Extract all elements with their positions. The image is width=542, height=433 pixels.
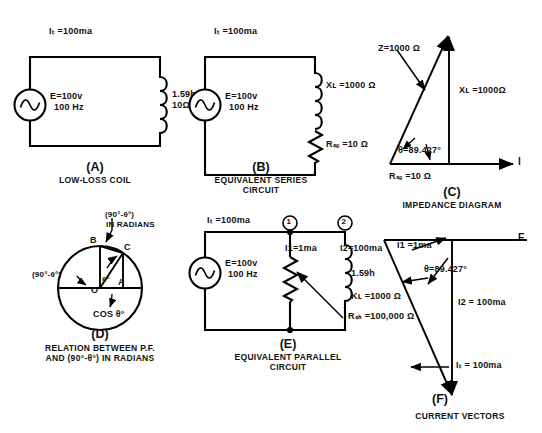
panel-d-arc-label: (90°-θ°) — [32, 271, 61, 280]
node-dot-bottom — [287, 327, 293, 333]
panel-a-source-voltage: E=100v — [50, 91, 82, 101]
panel-b-caption-letter: (B) — [252, 160, 269, 174]
panel-b-reactance-label: Xʟ =1000 Ω — [326, 80, 376, 90]
panel-f-theta-label: θ=89.427° — [424, 264, 467, 274]
theta-leader-line-2 — [402, 278, 428, 282]
panel-a-source-frequency: 100 Hz — [54, 102, 84, 112]
inductor-symbol — [160, 77, 167, 133]
panel-c-theta-label: θ=89.427° — [398, 145, 441, 155]
panel-e-node1-label: 1 — [287, 218, 292, 227]
arc-label-pointer — [77, 276, 86, 285]
panel-c-caption-letter: (C) — [443, 185, 460, 199]
panel-c-resistance-label: Rₛₑ =10 Ω — [389, 171, 431, 181]
panel-b-caption-text-2: CIRCUIT — [243, 186, 280, 196]
panel-d-caption-letter: (D) — [91, 327, 108, 341]
panel-b-source-frequency: 100 Hz — [229, 102, 259, 112]
panel-e-current-label: Iₜ =100ma — [207, 215, 250, 225]
wire-path — [205, 57, 315, 175]
figure-page: Iₜ =100ma E=100v 100 Hz 1.59h 10Ω (A) LO… — [0, 0, 542, 433]
panel-f-caption-text: CURRENT VECTORS — [415, 412, 504, 422]
panel-c-caption-text: IMPEDANCE DIAGRAM — [402, 201, 501, 211]
panel-e-node2-label: 2 — [342, 218, 347, 227]
wire-path — [205, 232, 345, 330]
resistor-symbol — [309, 131, 322, 163]
cos-leader-line — [110, 294, 112, 307]
panel-d-caption-text-2: AND (90°-θ°) IN RADIANS — [46, 354, 155, 364]
panel-d-top-label-2: IN RADIANS — [106, 221, 155, 230]
panel-d-theta-label: θ° — [102, 276, 110, 285]
panel-b-current-label: Iₜ =100ma — [214, 26, 257, 36]
panel-d-top-label-1: (90°-θ°) — [105, 211, 134, 220]
panel-c-reactance-label: Xʟ =1000Ω — [459, 85, 506, 95]
panel-e-branch2-current: I2=100ma — [340, 243, 382, 253]
inductor-symbol — [315, 73, 322, 129]
panel-f-i1-label: I1 =1ma — [397, 240, 432, 250]
panel-e-inductance-label: 1.59h — [351, 268, 375, 278]
panel-a-current-label: Iₜ =100ma — [49, 26, 92, 36]
panel-e-caption-letter: (E) — [280, 337, 297, 351]
panel-d-cos-label: COS θ° — [93, 309, 125, 319]
panel-b-schematic — [185, 35, 385, 195]
panel-d-point-o: O — [91, 285, 98, 295]
panel-e-branch1-current: I1=1ma — [285, 243, 317, 253]
panel-e-source-frequency: 100 Hz — [228, 269, 258, 279]
panel-f-i2-label: I2 = 100ma — [458, 297, 506, 307]
shunt-resistor-symbol — [284, 257, 297, 302]
panel-e-caption-text-2: CIRCUIT — [270, 363, 307, 373]
panel-d-point-b: B — [90, 235, 97, 245]
panel-d-point-c: C — [124, 242, 131, 252]
panel-e-source-voltage: E=100v — [225, 258, 257, 268]
panel-c-impedance-label: Z=1000 Ω — [378, 43, 420, 53]
angle-arc-indicator — [107, 256, 117, 268]
z-leader-line — [397, 50, 425, 90]
panel-f-caption-letter: (F) — [432, 392, 448, 406]
panel-b-source-voltage: E=100v — [225, 91, 257, 101]
wire-path — [30, 57, 160, 146]
panel-a-schematic — [10, 35, 210, 195]
panel-a-caption-text: LOW-LOSS COIL — [59, 176, 131, 186]
panel-f-diagram — [382, 222, 542, 412]
panel-d-point-a: A — [118, 277, 125, 287]
panel-b-resistance-label: Rₛₑ =10 Ω — [326, 139, 368, 149]
panel-c-axis-label: I — [518, 156, 521, 167]
panel-f-voltage-axis-label: E — [518, 232, 525, 243]
rsh-leader-line — [297, 272, 343, 318]
panel-f-it-label: Iₜ = 100ma — [456, 360, 502, 370]
panel-a-caption-letter: (A) — [86, 160, 103, 174]
